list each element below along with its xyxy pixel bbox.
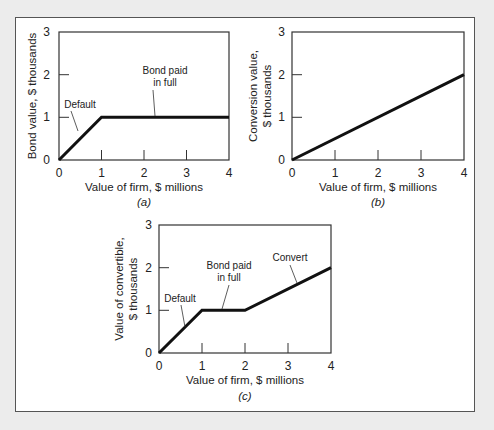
plot-area-a bbox=[59, 32, 229, 160]
y-axis-label-c-1: Value of convertible, bbox=[113, 237, 125, 340]
y-tick-c-3: 3 bbox=[145, 218, 152, 232]
x-tick-c-3: 3 bbox=[285, 359, 292, 373]
x-tick-b-4: 4 bbox=[461, 166, 468, 180]
y-tick-c-1: 1 bbox=[145, 303, 152, 317]
y-tick-c-2: 2 bbox=[145, 261, 152, 275]
y-tick-b-2: 2 bbox=[278, 68, 285, 82]
x-tick-c-2: 2 bbox=[242, 359, 249, 373]
y-tick-c-0: 0 bbox=[145, 346, 152, 360]
caption-b: (b) bbox=[371, 196, 385, 208]
y-tick-b-3: 3 bbox=[278, 25, 285, 39]
x-axis-label-c: Value of firm, $ millions bbox=[186, 374, 304, 386]
annotation-paid-a-1: Bond paid bbox=[142, 65, 187, 76]
y-axis-label-a: Bond value, $ thousands bbox=[26, 32, 38, 159]
y-axis-label-c-2: $ thousands bbox=[127, 257, 139, 320]
chart-a: 0 1 2 3 0 1 2 3 4 Value of firm, $ milli… bbox=[26, 25, 233, 208]
y-tick-a-3: 3 bbox=[43, 25, 50, 39]
x-axis-label-b: Value of firm, $ millions bbox=[319, 181, 437, 193]
x-tick-a-3: 3 bbox=[183, 166, 190, 180]
x-tick-c-1: 1 bbox=[199, 359, 206, 373]
annotation-paid-c-2: in full bbox=[217, 272, 240, 283]
caption-c: (c) bbox=[238, 390, 252, 402]
x-tick-c-0: 0 bbox=[156, 359, 163, 373]
series-line-c bbox=[159, 268, 331, 353]
x-tick-b-3: 3 bbox=[418, 166, 425, 180]
y-tick-a-0: 0 bbox=[43, 153, 50, 167]
x-tick-a-0: 0 bbox=[56, 166, 63, 180]
x-tick-b-2: 2 bbox=[375, 166, 382, 180]
annotation-convert-c: Convert bbox=[272, 252, 307, 263]
caption-a: (a) bbox=[137, 196, 151, 208]
chart-b: 0 1 2 3 0 1 2 3 4 Value of firm, $ milli… bbox=[247, 25, 468, 208]
x-tick-b-0: 0 bbox=[289, 166, 296, 180]
annotation-paid-a-2: in full bbox=[153, 77, 176, 88]
y-axis-label-b-1: Conversion value, bbox=[247, 50, 259, 142]
x-tick-a-2: 2 bbox=[141, 166, 148, 180]
x-tick-c-4: 4 bbox=[328, 359, 335, 373]
y-axis-label-b-2: $ thousands bbox=[261, 64, 273, 127]
x-tick-b-1: 1 bbox=[332, 166, 339, 180]
annotation-default-c: Default bbox=[164, 293, 196, 304]
x-tick-a-4: 4 bbox=[226, 166, 233, 180]
series-line-b bbox=[292, 75, 464, 160]
annotation-default-a: Default bbox=[64, 99, 96, 110]
plot-area-b bbox=[292, 32, 464, 160]
annotation-paid-c-1: Bond paid bbox=[206, 260, 251, 271]
x-tick-a-1: 1 bbox=[98, 166, 105, 180]
y-tick-b-0: 0 bbox=[278, 153, 285, 167]
y-tick-a-2: 2 bbox=[43, 68, 50, 82]
y-tick-a-1: 1 bbox=[43, 110, 50, 124]
x-axis-label-a: Value of firm, $ millions bbox=[85, 181, 203, 193]
figure-svg: 0 1 2 3 0 1 2 3 4 Value of firm, $ milli… bbox=[0, 0, 494, 430]
plot-area-c bbox=[159, 225, 331, 353]
chart-c: 0 1 2 3 0 1 2 3 4 Value of firm, $ milli… bbox=[113, 218, 335, 402]
y-tick-b-1: 1 bbox=[278, 110, 285, 124]
